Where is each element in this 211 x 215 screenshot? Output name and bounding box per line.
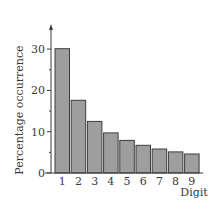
x-tick-label: 6 — [140, 175, 147, 188]
y-tick-label: 10 — [31, 126, 45, 139]
y-tick-label: 0 — [38, 167, 45, 180]
x-tick-label: 3 — [91, 175, 98, 188]
y-axis-arrow-icon — [49, 24, 53, 30]
x-axis-title: Digit — [180, 186, 208, 199]
x-tick-label: 8 — [172, 175, 179, 188]
x-tick-label: 1 — [59, 175, 66, 188]
bars-group — [55, 49, 199, 173]
y-tick-label: 30 — [31, 43, 45, 56]
x-tick-labels: 123456789 — [59, 175, 196, 188]
y-ticks: 0102030 — [31, 43, 51, 180]
bar-digit-4 — [104, 133, 119, 173]
benford-bar-chart: 0102030 123456789 Digit Percentage occur… — [0, 0, 211, 215]
y-tick-label: 20 — [31, 84, 45, 97]
bar-digit-8 — [168, 152, 183, 173]
bar-digit-1 — [55, 49, 70, 173]
bar-digit-9 — [185, 154, 200, 173]
bar-digit-6 — [136, 145, 151, 173]
bar-digit-3 — [87, 121, 102, 173]
y-axis-title: Percentage occurrence — [13, 45, 26, 174]
x-tick-label: 5 — [124, 175, 131, 188]
bar-digit-7 — [152, 149, 167, 173]
x-tick-label: 2 — [75, 175, 82, 188]
y-axis — [49, 24, 53, 173]
x-tick-label: 4 — [107, 175, 114, 188]
bar-digit-2 — [71, 100, 86, 173]
x-tick-label: 7 — [156, 175, 163, 188]
bar-digit-5 — [120, 140, 135, 173]
